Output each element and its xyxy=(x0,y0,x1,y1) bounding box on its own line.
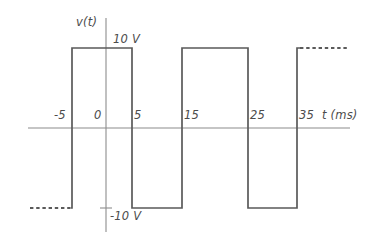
x-axis-label: t (ms) xyxy=(322,110,358,122)
x-tick-label-35: 35 xyxy=(299,110,314,122)
y-top-value-label: 10 V xyxy=(113,34,140,46)
waveform-plot xyxy=(0,0,381,245)
x-tick-label-25: 25 xyxy=(250,110,265,122)
x-tick-label-0: 0 xyxy=(94,110,102,122)
x-tick-label-5: 5 xyxy=(134,110,142,122)
y-axis-label: v(t) xyxy=(76,17,97,29)
waveform-figure: v(t) 10 V -10 V t (ms) -5 0 5 15 25 35 xyxy=(0,0,381,245)
x-tick-label-15: 15 xyxy=(184,110,199,122)
x-tick-label-minus-5: -5 xyxy=(54,110,66,122)
y-bottom-value-label: -10 V xyxy=(110,211,141,223)
